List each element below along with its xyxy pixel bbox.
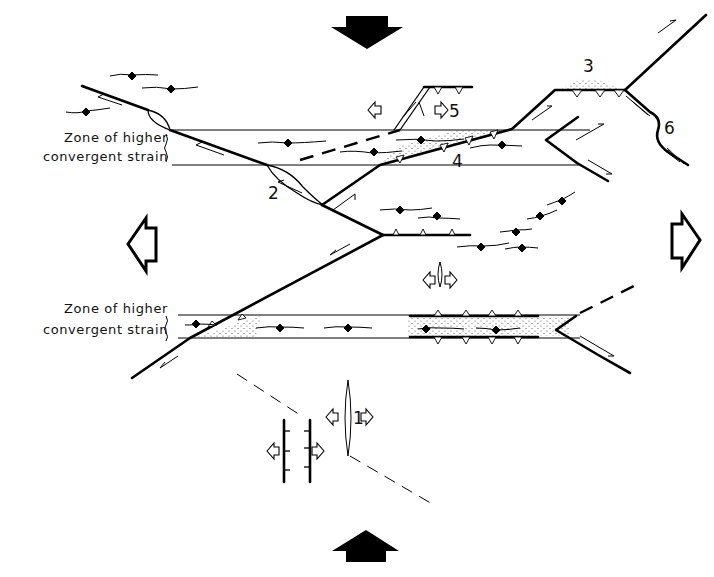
stipple-area-3 xyxy=(560,79,620,90)
extension-arrow-left-icon xyxy=(128,218,156,271)
diagram-canvas: Zone of higher convergent strain Zone of… xyxy=(0,0,714,577)
zone-label-upper-line1: Zone of higher xyxy=(64,130,168,145)
compression-arrow-top-icon xyxy=(331,16,403,49)
zone-label-upper-line2: convergent strain xyxy=(43,149,168,164)
label-2: 2 xyxy=(268,183,279,203)
label-4: 4 xyxy=(452,151,463,171)
label-3: 3 xyxy=(583,56,594,76)
extension-arrow-right-icon xyxy=(672,214,700,268)
main-fault-system xyxy=(82,15,706,378)
lower-strain-zone: Zone of higher convergent strain xyxy=(43,301,580,341)
compression-arrow-bottom-icon xyxy=(332,530,399,562)
zone-label-lower-line1: Zone of higher xyxy=(64,301,168,316)
label-1: 1 xyxy=(353,408,364,428)
zone-label-lower-line2: convergent strain xyxy=(43,322,168,337)
feature-1-extension xyxy=(237,102,457,505)
upper-strain-zone: Zone of higher convergent strain xyxy=(43,129,590,165)
label-5: 5 xyxy=(449,101,460,121)
thrust-teeth xyxy=(208,87,624,344)
label-6: 6 xyxy=(664,118,675,138)
